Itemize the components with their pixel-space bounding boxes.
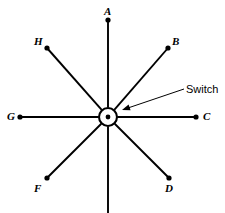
spoke-line-d[interactable]	[115, 124, 169, 178]
terminal-label-b: B	[172, 36, 179, 47]
leader-line	[129, 89, 184, 108]
terminal-dot-b[interactable]	[165, 45, 170, 50]
terminal-label-f: F	[34, 183, 41, 194]
terminal-label-g: G	[7, 111, 15, 122]
terminal-dot-d[interactable]	[166, 175, 171, 180]
terminal-label-a: A	[104, 6, 111, 17]
terminal-dot-h[interactable]	[44, 45, 49, 50]
terminal-dot-f[interactable]	[44, 175, 49, 180]
terminal-dot-a[interactable]	[105, 17, 110, 22]
switch-center-dot	[106, 115, 111, 120]
terminal-label-c: C	[203, 111, 210, 122]
leader-arrowhead	[122, 104, 131, 110]
rotary-switch-figure: ABCDFGH Switch	[0, 0, 225, 213]
terminal-label-h: H	[34, 36, 43, 47]
terminal-dot-c[interactable]	[193, 114, 198, 119]
switch-callout-label: Switch	[186, 84, 218, 95]
switch-callout-leader	[122, 89, 184, 110]
terminal-label-d: D	[165, 183, 173, 194]
spoke-line-b[interactable]	[114, 48, 168, 110]
switch-symbol[interactable]	[99, 108, 117, 126]
terminal-dot-g[interactable]	[17, 114, 22, 119]
spoke-line-f[interactable]	[47, 124, 101, 178]
spoke-line-h[interactable]	[47, 48, 102, 110]
